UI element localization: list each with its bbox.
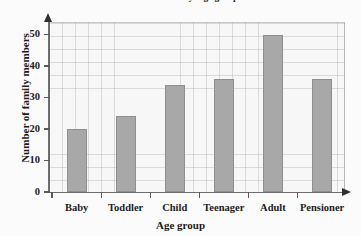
bar-adult — [263, 35, 283, 192]
y-tick-label: 20 — [0, 124, 40, 135]
y-tick-label: 30 — [0, 92, 40, 103]
bar-pensioner — [312, 79, 332, 192]
x-tick-mark — [51, 192, 52, 198]
bar-chart: Numbers in family: age groups Number of … — [0, 0, 361, 236]
x-axis-line — [48, 192, 343, 194]
bar-teenager — [214, 79, 234, 192]
plot-grid — [49, 22, 345, 192]
y-tick-mark — [44, 128, 50, 129]
x-tick-mark — [248, 192, 249, 198]
y-tick-label: 50 — [0, 29, 40, 40]
y-tick-label: 0 — [0, 187, 40, 198]
x-axis-title: Age group — [0, 219, 361, 231]
x-tick-label-teenager: Teenager — [199, 203, 248, 214]
y-axis-line — [48, 20, 50, 193]
y-tick-mark — [44, 191, 50, 192]
y-axis-arrow-icon — [44, 13, 52, 22]
bar-toddler — [116, 116, 136, 192]
x-tick-mark — [150, 192, 151, 198]
x-tick-mark — [297, 192, 298, 198]
x-tick-label-pensioner: Pensioner — [298, 203, 347, 214]
x-tick-label-child: Child — [150, 203, 199, 214]
chart-title: Numbers in family: age groups — [0, 0, 361, 4]
y-tick-mark — [44, 65, 50, 66]
y-tick-mark — [44, 97, 50, 98]
x-tick-label-baby: Baby — [52, 203, 101, 214]
y-tick-mark — [44, 160, 50, 161]
x-tick-label-toddler: Toddler — [101, 203, 150, 214]
x-tick-mark — [101, 192, 102, 198]
y-tick-label: 10 — [0, 155, 40, 166]
bar-child — [165, 85, 185, 192]
y-tick-label: 40 — [0, 61, 40, 72]
x-tick-label-adult: Adult — [248, 203, 297, 214]
x-axis-arrow-icon — [342, 188, 351, 196]
bar-baby — [67, 129, 87, 192]
y-tick-mark — [44, 34, 50, 35]
plot-area — [49, 22, 345, 192]
x-tick-mark — [199, 192, 200, 198]
